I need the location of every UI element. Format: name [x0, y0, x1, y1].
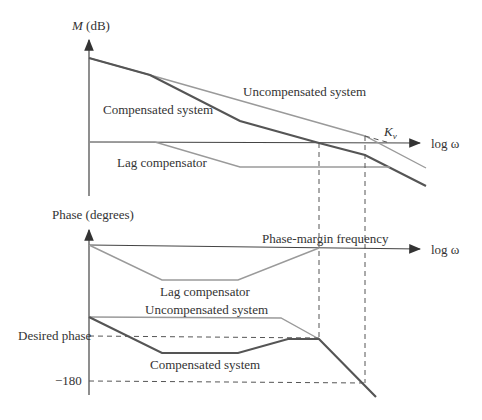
magnitude-plot: M (dB) log ω Uncompensated system Compen…: [71, 18, 460, 196]
magnitude-compensated-label: Compensated system: [103, 102, 213, 117]
magnitude-uncompensated-label: Uncompensated system: [243, 84, 366, 99]
phase-x-label: log ω: [431, 242, 460, 257]
phase-plot: Phase (degrees) log ω Phase-margin frequ…: [18, 207, 460, 397]
phase-lag-label: Lag compensator: [160, 284, 251, 299]
minus-180-label: −180: [55, 373, 82, 388]
phase-margin-frequency-label: Phase-margin frequency: [262, 231, 389, 246]
kv-label: Kv: [383, 124, 397, 141]
phase-uncompensated-label: Uncompensated system: [145, 302, 268, 317]
uncompensated-phase-curve: [89, 317, 319, 339]
magnitude-y-label: M (dB): [71, 18, 110, 33]
magnitude-lag-label: Lag compensator: [117, 155, 208, 170]
lag-compensator-phase-curve: [89, 245, 319, 280]
minus-180-line: [89, 381, 365, 383]
desired-phase-label: Desired phase: [18, 328, 92, 343]
bode-lag-compensation-diagram: M (dB) log ω Uncompensated system Compen…: [0, 0, 482, 420]
phase-y-label: Phase (degrees): [52, 207, 134, 222]
magnitude-x-label: log ω: [431, 136, 460, 151]
desired-phase-line: [89, 336, 319, 338]
phase-compensated-label: Compensated system: [150, 357, 260, 372]
